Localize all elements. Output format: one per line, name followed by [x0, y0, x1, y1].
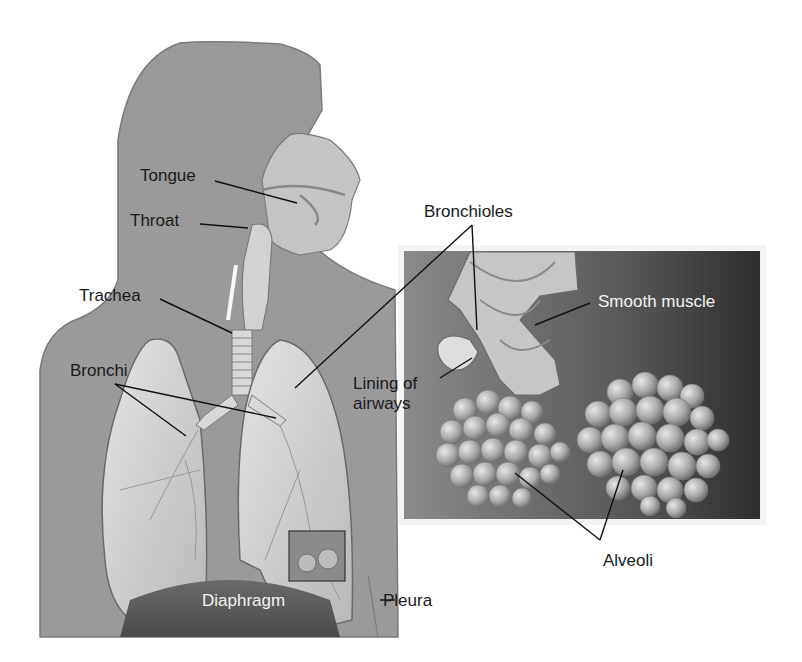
label-alveoli: Alveoli — [603, 552, 653, 569]
nasal-cavity — [262, 133, 360, 255]
inset-thumbnail — [289, 531, 345, 581]
label-diaphragm: Diaphragm — [202, 592, 285, 609]
label-tongue: Tongue — [140, 167, 196, 184]
label-bronchi: Bronchi — [70, 362, 128, 379]
label-trachea: Trachea — [79, 287, 141, 304]
label-throat: Throat — [130, 212, 179, 229]
respiratory-system-diagram: Tongue Throat Trachea Bronchi Bronchiole… — [0, 0, 802, 662]
label-smooth-muscle: Smooth muscle — [598, 293, 715, 310]
label-bronchioles: Bronchioles — [424, 203, 513, 220]
anatomy-illustration — [0, 0, 802, 662]
trachea — [232, 330, 252, 395]
label-lining-of-airways: Lining of airways — [353, 374, 417, 413]
alveoli-inset — [398, 245, 766, 525]
label-pleura: Pleura — [383, 592, 432, 609]
